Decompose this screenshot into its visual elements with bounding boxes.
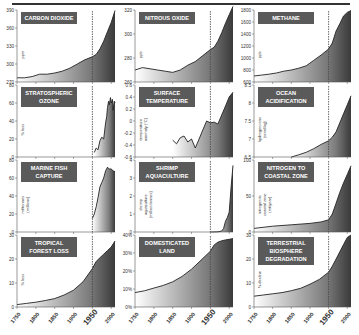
y-axis-label: % loss [20, 274, 25, 286]
y-tick-label: 0 [248, 305, 251, 310]
y-tick-label: 7 [248, 137, 251, 142]
panel-title: AQUACULTURE [146, 173, 189, 179]
y-axis-label: (millions) [25, 196, 30, 213]
panel-title: MARINE FISH [31, 165, 67, 171]
panel-title: STRATOSPHERIC [25, 90, 72, 96]
chart-panel-12: 0102030TERRESTRIALBIOSPHEREDEGRADATION% … [246, 233, 352, 327]
y-tick-label: 0% [125, 305, 132, 310]
panel-title: DOMESTICATED [145, 240, 189, 246]
x-tick-label: 2000 [103, 311, 115, 324]
y-tick-label: 360 [6, 26, 14, 31]
y-tick-label: 30% [123, 251, 132, 256]
y-tick-label: 320 [124, 8, 132, 13]
x-tick-label: 1750 [246, 311, 258, 324]
chart-panel-2: 260280300320NITROUS OXIDEppb [124, 6, 233, 84]
y-tick-label: 0 [11, 305, 14, 310]
y-tick-label: 40 [9, 194, 15, 199]
y-tick-label: 20 [9, 137, 15, 142]
panel-title: COASTAL ZONE [264, 173, 308, 179]
y-axis-label: % loss [20, 124, 25, 136]
x-tick-label: 1850 [47, 311, 59, 324]
x-tick-label: 1850 [284, 311, 296, 324]
panel-title: NITROUS OXIDE [145, 15, 189, 21]
x-tick-label: 1800 [28, 311, 40, 324]
y-tick-label: 100 [243, 158, 251, 163]
y-tick-label: 0.4 [126, 95, 133, 100]
panel-title: NITROGEN TO [267, 165, 306, 171]
y-tick-label: 3 [129, 176, 132, 181]
panel-title: TROPICAL [35, 240, 64, 246]
panel-title: FOREST LOSS [29, 248, 69, 254]
y-axis-label: % decline [257, 270, 262, 288]
y-tick-label: 10% [123, 287, 132, 292]
y-tick-label: 1600 [241, 20, 252, 25]
x-tick-label: 1900 [184, 311, 196, 324]
panel-title: LAND [159, 248, 175, 254]
x-tick-label: 1900 [66, 311, 78, 324]
panel-title: DEGRADATION [265, 256, 306, 262]
y-tick-label: 20 [9, 212, 15, 217]
y-tick-label: 10 [9, 281, 15, 286]
y-tick-label: 280 [124, 56, 132, 61]
y-axis-label: ppb [138, 51, 143, 58]
y-tick-label: 1 [129, 212, 132, 217]
x-tick-label: 1950 [81, 307, 100, 327]
x-tick-label: 1750 [127, 311, 139, 324]
y-tick-label: 10 [246, 281, 252, 286]
panel-title: SHRIMP [156, 165, 178, 171]
chart-grid: 270300330360390CARBON DIOXIDEppm26028030… [0, 0, 359, 335]
y-tick-label: 0 [129, 119, 132, 124]
y-tick-label: 60 [9, 176, 15, 181]
chart-panel-7: 020406080MARINE FISHCAPTUREmt/tonnes(mil… [9, 158, 115, 235]
x-tick-label: 1950 [199, 307, 218, 327]
chart-panel-10: 0102030TROPICALFOREST LOSS% loss17501800… [9, 233, 116, 327]
y-tick-label: 40% [123, 233, 132, 238]
y-tick-label: 0.6 [126, 83, 133, 88]
panel-title: METHANE [272, 15, 300, 21]
y-tick-label: 2 [129, 194, 132, 199]
y-tick-label: 60 [9, 101, 15, 106]
panel-title: SURFACE [154, 90, 181, 96]
y-axis-label: ppm [20, 50, 25, 58]
y-tick-label: 330 [6, 44, 14, 49]
chart-panel-1: 270300330360390CARBON DIOXIDEppm [6, 8, 115, 85]
panel-title: BIOSPHERE [270, 248, 303, 254]
y-axis-label: (nmol/kg) [262, 121, 267, 138]
panel-title: OCEAN [276, 90, 296, 96]
y-tick-label: 50 [246, 194, 252, 199]
y-tick-label: 0.2 [126, 107, 133, 112]
y-tick-label: 20 [9, 257, 15, 262]
y-tick-label: 8.5 [245, 83, 252, 88]
y-tick-label: 7.5 [245, 119, 252, 124]
x-tick-label: 2000 [221, 311, 233, 324]
chart-panel-6: 6.577.588.5OCEANACIDIFICATIONhydrogen io… [245, 83, 351, 160]
panel-title: CARBON DIOXIDE [24, 15, 73, 21]
x-tick-label: 1800 [265, 311, 277, 324]
x-tick-label: 1900 [302, 311, 314, 324]
y-tick-label: 80 [9, 83, 15, 88]
panel-title: CAPTURE [35, 173, 62, 179]
x-tick-label: 1850 [165, 311, 177, 324]
chart-panel-9: 050100NITROGEN TOCOASTAL ZONEnitrogen to… [243, 158, 351, 235]
chart-panel-3: 60080010001200140016001800METHANEppb [241, 8, 351, 85]
y-tick-label: 20% [123, 269, 132, 274]
y-tick-label: 30 [9, 233, 15, 238]
panel-title: TERRESTRIAL [266, 240, 306, 246]
y-tick-label: 1000 [241, 56, 252, 61]
y-tick-label: 1400 [241, 32, 252, 37]
y-tick-label: 1200 [241, 44, 252, 49]
chart-panel-5: -0.6-0.4-0.200.20.40.6SURFACETEMPERATURE… [124, 83, 233, 160]
y-tick-label: 390 [6, 8, 14, 13]
y-axis-label: anomaly (°C) [143, 117, 148, 141]
chart-panel-11: 0%10%20%30%40%DOMESTICATEDLAND1750180018… [123, 233, 234, 327]
y-tick-label: 800 [243, 68, 251, 73]
y-axis-label: (mt/year) [267, 196, 272, 213]
y-tick-label: 20 [246, 257, 252, 262]
chart-panel-4: 020406080STRATOSPHERICOZONE% loss [9, 83, 115, 160]
y-tick-label: 1800 [241, 8, 252, 13]
x-tick-label: 2000 [340, 311, 352, 324]
x-tick-label: 1750 [9, 311, 21, 324]
y-tick-label: 8 [248, 101, 251, 106]
panel-title: OZONE [39, 98, 59, 104]
y-tick-label: 80 [9, 158, 15, 163]
